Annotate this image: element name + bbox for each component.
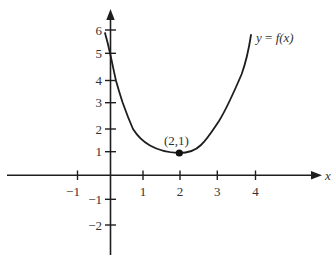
x-tick-label: −1	[66, 184, 80, 199]
y-tick-label: 5	[96, 46, 103, 61]
x-tick-label: 3	[214, 184, 221, 199]
y-tick-label: 1	[96, 144, 103, 159]
x-tick-label: 1	[140, 184, 147, 199]
y-tick-label: −2	[88, 218, 102, 233]
curve-label-eq: =	[262, 30, 276, 45]
y-tick-label: −1	[88, 192, 102, 207]
minimum-point-marker	[176, 149, 183, 156]
x-axis: x	[7, 168, 331, 183]
y-tick-label: 4	[96, 73, 103, 88]
x-tick-label: 2	[177, 184, 184, 199]
y-tick-label: 3	[96, 95, 103, 110]
minimum-point-label: (2,1)	[164, 133, 189, 148]
curve-label: y = f(x)	[254, 30, 294, 45]
y-tick-label: 2	[96, 122, 103, 137]
curve-label-f: f(x)	[276, 30, 294, 45]
x-axis-arrow-icon	[311, 171, 322, 180]
x-tick-label: 4	[252, 184, 259, 199]
y-axis-arrow-icon	[106, 9, 114, 20]
y-tick-label: 6	[96, 23, 103, 38]
y-ticks: 6 5 4 3 2 1 −1 −2	[88, 23, 116, 233]
x-axis-label: x	[324, 168, 331, 183]
function-graph: x −1 1 2 3 4 6 5 4 3 2 1 −1 −2	[0, 0, 336, 256]
